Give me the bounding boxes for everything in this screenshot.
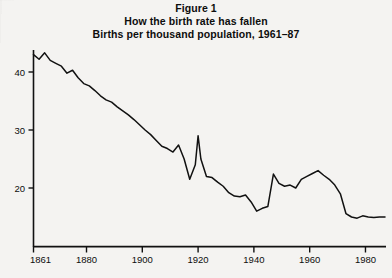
axes-group — [33, 50, 386, 247]
x-tick-label: 1940 — [243, 254, 264, 265]
x-tick-label: 1920 — [188, 254, 209, 265]
figure-container: Figure 1 How the birth rate has fallen B… — [0, 0, 392, 278]
x-tick-label: 1980 — [355, 254, 376, 265]
y-tick-label: 30 — [14, 125, 25, 136]
y-tick-label: 20 — [14, 183, 25, 194]
x-tick-label: 1900 — [132, 254, 153, 265]
x-tick-label: 1880 — [76, 254, 97, 265]
birth-rate-line — [34, 53, 386, 218]
x-tick-group: 1861188019001920194019601980 — [30, 247, 376, 265]
y-tick-label: 40 — [14, 67, 25, 78]
y-tick-group: 203040 — [14, 67, 33, 194]
x-tick-label: 1861 — [30, 254, 51, 265]
line-chart: 203040 1861188019001920194019601980 — [0, 0, 392, 278]
x-tick-label: 1960 — [299, 254, 320, 265]
